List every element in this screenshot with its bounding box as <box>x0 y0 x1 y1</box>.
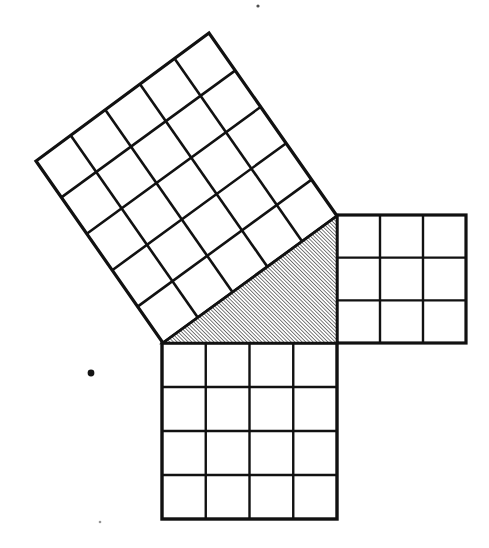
speck-left-icon <box>88 370 95 377</box>
square-on-vertical-leg <box>337 215 466 343</box>
speck-top-icon <box>256 4 259 7</box>
vertical-leg-square-outline <box>337 215 466 343</box>
speck-bottom-icon <box>99 521 102 524</box>
pythagorean-theorem-diagram: Pythagorean theorem square-on-each-side … <box>0 0 489 548</box>
figure-canvas: Pythagorean theorem square-on-each-side … <box>0 0 489 548</box>
square-on-horizontal-leg <box>162 343 337 519</box>
